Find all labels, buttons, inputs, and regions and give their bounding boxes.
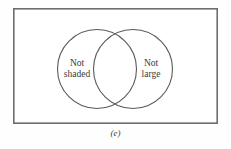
left-set-label: Not shaded xyxy=(54,58,100,80)
diagram-canvas xyxy=(0,0,231,149)
universal-set-rectangle xyxy=(14,9,217,123)
right-set-label-line-2: large xyxy=(130,69,172,80)
right-set-label-line-1: Not xyxy=(130,58,172,69)
left-set-label-line-1: Not xyxy=(54,58,100,69)
left-set-label-line-2: shaded xyxy=(54,69,100,80)
figure-caption: (e) xyxy=(0,128,231,138)
venn-diagram-figure: Not shaded Not large (e) xyxy=(0,0,231,149)
right-set-label: Not large xyxy=(130,58,172,80)
